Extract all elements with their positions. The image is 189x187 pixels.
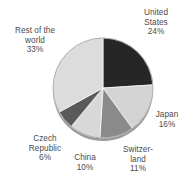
pie-chart-figure: United States 24% Rest of the world 33% … (0, 0, 189, 187)
pie-label-rest-of-the-world: Rest of the world 33% (2, 26, 68, 55)
pie-slices (53, 38, 153, 138)
pie-label-czech-republic: Czech Republic 6% (18, 134, 72, 163)
pie-label-japan: Japan 16% (146, 110, 188, 129)
pie-slice-united-states[interactable] (103, 38, 153, 88)
pie-label-united-states: United States 24% (128, 8, 184, 37)
pie-label-switzerland: Switzer- land 11% (113, 145, 163, 174)
